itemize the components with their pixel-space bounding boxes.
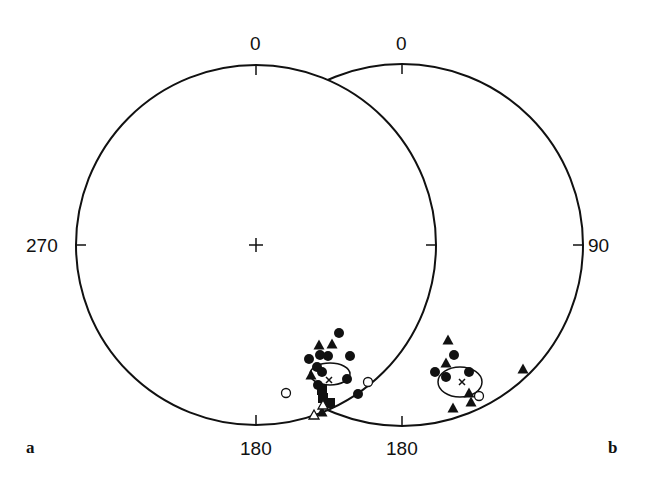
filled-triangle-marker	[448, 403, 459, 413]
filled-circle-marker	[441, 372, 451, 382]
panel-label-b: b	[608, 438, 617, 457]
mean-direction-x-icon	[326, 377, 332, 383]
stereonet-figure: 0 270 180 0 90 180 a b	[0, 0, 655, 478]
right-east-label: 90	[588, 235, 609, 256]
left-north-label: 0	[250, 33, 261, 54]
open-circle-marker	[282, 389, 291, 398]
filled-triangle-marker	[464, 388, 475, 398]
filled-circle-marker	[334, 328, 344, 338]
mean-direction-x-icon	[459, 379, 465, 385]
data-markers	[282, 328, 529, 419]
filled-circle-marker	[430, 367, 440, 377]
filled-triangle-marker	[443, 335, 454, 345]
right-north-label: 0	[396, 33, 407, 54]
left-ticks	[76, 65, 436, 425]
right-primitive-circle	[221, 64, 583, 426]
filled-circle-marker	[464, 367, 474, 377]
filled-circle-marker	[317, 367, 327, 377]
right-south-label: 180	[386, 438, 418, 459]
filled-triangle-marker	[314, 340, 325, 350]
filled-circle-marker	[304, 354, 314, 364]
left-south-label: 180	[240, 438, 272, 459]
filled-triangle-marker	[441, 358, 452, 368]
filled-triangle-marker	[327, 339, 338, 349]
filled-circle-marker	[323, 351, 333, 361]
left-west-label: 270	[26, 235, 58, 256]
open-circle-marker	[475, 392, 484, 401]
filled-circle-marker	[449, 350, 459, 360]
open-circle-marker	[364, 378, 373, 387]
filled-circle-marker	[342, 374, 352, 384]
filled-circle-marker	[353, 389, 363, 399]
filled-triangle-marker	[518, 364, 529, 374]
panel-label-a: a	[26, 438, 35, 457]
filled-circle-marker	[345, 351, 355, 361]
